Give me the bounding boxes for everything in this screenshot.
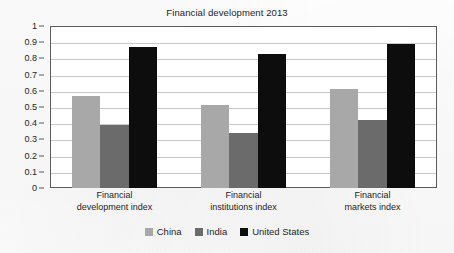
- x-category-label-line: development index: [50, 202, 179, 214]
- legend-swatch-icon: [145, 228, 153, 236]
- y-tick-label: 0.6: [24, 86, 37, 96]
- y-axis: 10.90.80.70.60.50.40.30.20.10: [0, 26, 44, 188]
- y-tick-label: 0.9: [24, 37, 37, 47]
- y-tick-mark: [39, 139, 44, 140]
- x-category-label-line: institutions index: [179, 202, 308, 214]
- x-category-label-line: Financial: [179, 190, 308, 202]
- y-tick-mark: [39, 107, 44, 108]
- gridline: [51, 157, 436, 158]
- y-tick-label: 0.5: [24, 102, 37, 112]
- y-tick-label: 0.8: [24, 53, 37, 63]
- y-tick-mark: [39, 74, 44, 75]
- legend-item[interactable]: China: [145, 226, 182, 237]
- legend-swatch-icon: [195, 228, 203, 236]
- y-tick-mark: [39, 188, 44, 189]
- y-tick-mark: [39, 90, 44, 91]
- chart-title: Financial development 2013: [0, 7, 454, 18]
- x-category-label-line: Financial: [308, 190, 437, 202]
- y-tick-label: 1: [32, 21, 37, 31]
- legend-label: India: [207, 226, 228, 237]
- gridline: [51, 59, 436, 60]
- y-tick-label: 0.3: [24, 134, 37, 144]
- legend-swatch-icon: [240, 228, 248, 236]
- gridline: [51, 43, 436, 44]
- x-category-label: Financialmarkets index: [308, 190, 437, 213]
- gridline: [51, 76, 436, 77]
- y-tick-mark: [39, 123, 44, 124]
- y-tick-mark: [39, 171, 44, 172]
- y-tick-mark: [39, 155, 44, 156]
- y-tick-mark: [39, 58, 44, 59]
- y-tick-label: 0.4: [24, 118, 37, 128]
- legend-label: United States: [252, 226, 309, 237]
- x-category-label-line: Financial: [50, 190, 179, 202]
- legend-item[interactable]: India: [195, 226, 228, 237]
- y-tick-mark: [39, 26, 44, 27]
- y-tick-mark: [39, 42, 44, 43]
- legend-label: China: [157, 226, 182, 237]
- x-category-label-line: markets index: [308, 202, 437, 214]
- y-tick-label: 0.2: [24, 151, 37, 161]
- x-category-label: Financialdevelopment index: [50, 190, 179, 213]
- gridline: [51, 108, 436, 109]
- chart-legend: ChinaIndiaUnited States: [0, 226, 454, 237]
- gridline: [51, 124, 436, 125]
- x-axis: Financialdevelopment indexFinancialinsti…: [50, 190, 437, 220]
- gridline: [51, 140, 436, 141]
- y-tick-label: 0: [32, 183, 37, 193]
- x-category-label: Financialinstitutions index: [179, 190, 308, 213]
- y-tick-label: 0.7: [24, 70, 37, 80]
- gridline: [51, 173, 436, 174]
- plot-area: [50, 26, 437, 188]
- gridlines: [51, 27, 436, 187]
- y-tick-label: 0.1: [24, 167, 37, 177]
- gridline: [51, 92, 436, 93]
- legend-item[interactable]: United States: [240, 226, 309, 237]
